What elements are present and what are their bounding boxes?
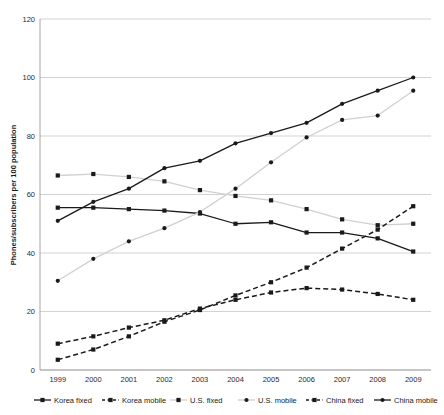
data-point [56,173,60,177]
x-tick-label: 2007 [334,375,351,384]
legend-item-korea-fixed[interactable]: Korea fixed [34,396,92,405]
legend-label: China mobile [394,396,438,405]
data-point [304,230,308,234]
data-point [91,200,95,204]
x-tick-label: 2009 [405,375,422,384]
data-point [127,325,131,329]
series-layer [56,75,416,361]
data-point [269,290,273,294]
data-point [304,135,308,139]
data-point [162,166,166,170]
data-point [269,131,273,135]
chart-canvas: 020406080100120 199920002001200220032004… [0,0,444,415]
data-point [127,187,131,191]
data-point [127,207,131,211]
x-tick-label: 1999 [49,375,66,384]
data-point [233,222,237,226]
data-point [91,334,95,338]
legend-swatch-marker [244,398,248,402]
y-tick-label: 100 [22,73,35,82]
series-china-mobile [56,75,416,223]
legend-label: Korea mobile [122,396,166,405]
series-u-s-mobile [56,89,416,283]
data-point [233,194,237,198]
data-point [91,347,95,351]
data-point [56,279,60,283]
data-point [198,210,202,214]
data-point [56,342,60,346]
data-point [198,308,202,312]
y-tick-label: 40 [27,249,35,258]
data-point [376,89,380,93]
data-point [376,236,380,240]
data-point [340,230,344,234]
data-point [411,75,415,79]
legend-item-u-s-mobile[interactable]: U.S. mobile [238,396,297,405]
data-point [233,141,237,145]
data-point [127,175,131,179]
series-u-s-fixed [56,172,416,227]
y-axis-title: Phones/subscribers per 100 population [9,124,18,265]
data-point [233,298,237,302]
data-point [376,292,380,296]
legend-item-china-fixed[interactable]: China fixed [306,396,364,405]
data-point [56,219,60,223]
x-tick-label: 2001 [121,375,138,384]
series-korea-fixed [56,206,416,254]
data-point [376,228,380,232]
data-point [304,121,308,125]
data-point [411,89,415,93]
x-tick-label: 2002 [156,375,173,384]
data-point [340,217,344,221]
legend-swatch-marker [108,398,112,402]
x-tick-label: 2003 [192,375,209,384]
y-tick-label: 120 [22,15,35,24]
chart-legend: Korea fixedKorea mobileU.S. fixedU.S. mo… [34,396,438,405]
data-point [304,207,308,211]
legend-item-korea-mobile[interactable]: Korea mobile [102,396,166,405]
data-point [127,239,131,243]
data-point [91,206,95,210]
x-axis-tick-labels: 1999200020012002200320042005200620072008… [49,375,421,384]
legend-label: U.S. fixed [190,396,223,405]
data-point [162,226,166,230]
x-tick-label: 2005 [263,375,280,384]
data-point [411,298,415,302]
series-line [58,174,413,225]
data-point [198,188,202,192]
legend-swatch-marker [312,398,316,402]
data-point [411,249,415,253]
legend-label: Korea fixed [54,396,92,405]
data-point [376,113,380,117]
data-point [127,334,131,338]
legend-label: China fixed [326,396,364,405]
legend-swatch-marker [176,398,180,402]
data-point [411,222,415,226]
data-point [340,102,344,106]
legend-swatch-marker [380,398,384,402]
data-point [162,208,166,212]
x-tick-label: 2004 [227,375,244,384]
data-point [91,172,95,176]
data-point [233,293,237,297]
data-point [340,287,344,291]
data-point [411,204,415,208]
legend-label: U.S. mobile [258,396,297,405]
data-point [269,220,273,224]
y-tick-label: 20 [27,307,35,316]
data-point [198,159,202,163]
data-point [376,223,380,227]
series-line [58,78,413,221]
data-point [56,206,60,210]
y-axis-tick-labels: 020406080100120 [22,15,35,375]
line-chart: 020406080100120 199920002001200220032004… [0,0,444,415]
legend-item-u-s-fixed[interactable]: U.S. fixed [170,396,223,405]
data-point [56,358,60,362]
legend-item-china-mobile[interactable]: China mobile [374,396,438,405]
data-point [340,118,344,122]
x-tick-label: 2008 [369,375,386,384]
series-china-fixed [56,204,416,362]
y-tick-label: 60 [27,190,35,199]
data-point [269,160,273,164]
data-point [91,257,95,261]
